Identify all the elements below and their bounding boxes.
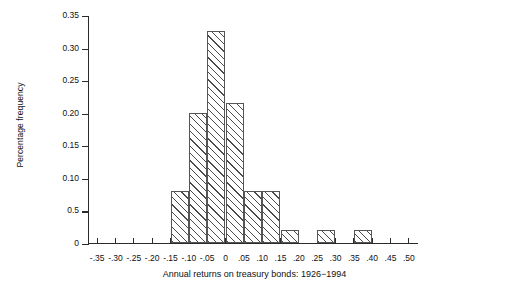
x-tick-mark (97, 238, 98, 244)
y-axis-line (88, 16, 89, 244)
histogram-bar (281, 230, 299, 243)
y-tick-label: 0.35 (62, 10, 79, 20)
histogram-bar (226, 103, 244, 243)
y-tick-label: 0.5 (67, 205, 79, 215)
histogram-figure: Percentage frequency 00.50.100.150.200.2… (0, 0, 509, 293)
y-axis-title: Percentage frequency (15, 35, 25, 215)
x-tick-mark (133, 238, 134, 244)
y-tick-label: 0.25 (62, 75, 79, 85)
x-tick-label: -.20 (145, 253, 160, 263)
y-tick-mark (82, 16, 89, 17)
plot-area: 00.50.100.150.200.250.300.35 -.35-.30-.2… (88, 16, 418, 244)
x-tick-label: .35 (348, 253, 360, 263)
histogram-bar (354, 230, 372, 243)
y-tick-label: 0.10 (62, 173, 79, 183)
y-tick-label: 0.20 (62, 108, 79, 118)
y-tick-mark (82, 146, 89, 147)
y-tick-label: 0.15 (62, 140, 79, 150)
chart-caption: Annual returns on treasury bonds: 1926−1… (0, 269, 509, 279)
x-tick-label: .30 (330, 253, 342, 263)
y-tick-mark (82, 179, 89, 180)
y-tick-label: 0.30 (62, 43, 79, 53)
x-tick-label: .45 (385, 253, 397, 263)
x-tick-label: 0 (223, 253, 228, 263)
x-tick-mark (152, 238, 153, 244)
x-tick-label: .25 (311, 253, 323, 263)
histogram-bar (262, 191, 280, 243)
x-tick-mark (408, 238, 409, 244)
x-tick-label: -.10 (182, 253, 197, 263)
x-tick-mark (115, 238, 116, 244)
x-tick-label: .20 (293, 253, 305, 263)
histogram-bar (171, 191, 189, 243)
x-tick-label: .10 (256, 253, 268, 263)
x-tick-label: .40 (366, 253, 378, 263)
x-tick-label: -.15 (163, 253, 178, 263)
x-tick-mark (390, 238, 391, 244)
x-tick-label: .50 (403, 253, 415, 263)
x-axis-line (88, 243, 418, 244)
x-tick-label: .05 (238, 253, 250, 263)
x-tick-label: .15 (275, 253, 287, 263)
y-tick-mark (82, 49, 89, 50)
y-tick-mark (82, 211, 89, 212)
y-tick-mark (82, 81, 89, 82)
histogram-bar (244, 191, 262, 243)
x-tick-label: -.05 (200, 253, 215, 263)
x-tick-label: -.35 (90, 253, 105, 263)
x-tick-label: -.30 (108, 253, 123, 263)
histogram-bar (317, 230, 335, 243)
histogram-bar (207, 31, 225, 243)
x-tick-label: -.25 (127, 253, 142, 263)
y-tick-mark (82, 114, 89, 115)
histogram-bar (189, 113, 207, 243)
y-tick-label: 0 (74, 238, 79, 248)
y-tick-mark (82, 244, 89, 245)
